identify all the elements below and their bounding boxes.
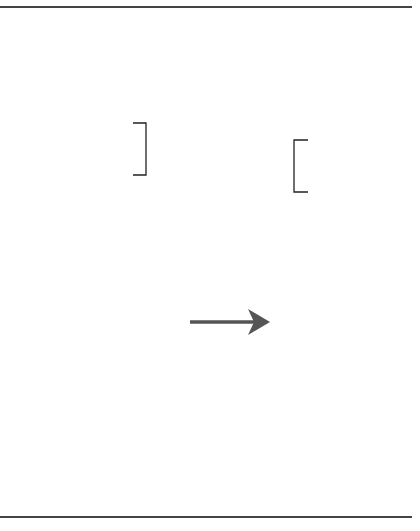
codon-codon-bracket	[133, 123, 146, 175]
dna-diagram	[0, 0, 420, 531]
codon-bracket	[294, 140, 308, 192]
